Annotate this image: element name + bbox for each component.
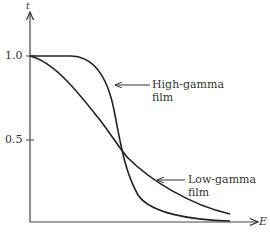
tick-label-05: 0.5 xyxy=(5,134,23,146)
y-axis-label: t xyxy=(26,0,30,12)
high-gamma-label: High-gamma xyxy=(152,79,224,91)
x-axis-label: E xyxy=(259,216,267,228)
high-gamma-label-2: film xyxy=(152,92,173,104)
low-gamma-label-2: film xyxy=(188,187,209,199)
tick-label-1: 1.0 xyxy=(5,50,23,62)
chart-svg xyxy=(0,0,270,233)
low-gamma-label: Low-gamma xyxy=(188,174,256,186)
